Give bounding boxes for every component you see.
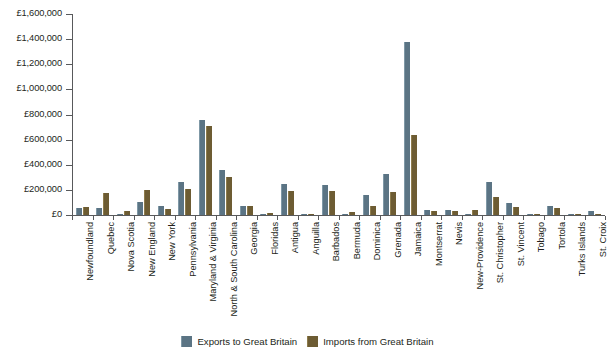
bar-group: [134, 14, 155, 215]
y-tick-label: £1,200,000: [0, 59, 62, 68]
bar-group: [113, 14, 134, 215]
bar-imports: [144, 190, 150, 215]
bar-imports: [349, 212, 355, 215]
x-axis-label: St. Christopher: [496, 222, 505, 283]
bar-imports: [124, 211, 130, 215]
bar-group: [564, 14, 585, 215]
bar-imports: [493, 197, 499, 215]
bar-imports: [83, 207, 89, 215]
bar-exports: [486, 182, 492, 215]
x-axis-label: Floridas: [271, 222, 280, 255]
x-axis-label: New York: [168, 222, 177, 261]
bar-exports: [158, 206, 164, 215]
x-axis-label: Tortola: [558, 222, 567, 250]
plot-area: [72, 14, 605, 215]
x-tick-mark: [482, 216, 483, 220]
x-tick-mark: [359, 216, 360, 220]
bar-exports: [342, 214, 348, 216]
x-tick-mark: [380, 216, 381, 220]
bar-exports: [445, 210, 451, 215]
y-tick-label: £0: [0, 210, 62, 219]
x-tick-mark: [503, 216, 504, 220]
y-tick-label: £400,000: [0, 160, 62, 169]
bar-group: [72, 14, 93, 215]
bar-exports: [424, 210, 430, 215]
x-tick-mark: [195, 216, 196, 220]
x-tick-mark: [441, 216, 442, 220]
y-tick-label: £800,000: [0, 110, 62, 119]
x-tick-mark: [462, 216, 463, 220]
legend-item[interactable]: Exports to Great Britain: [181, 336, 297, 347]
bar-imports: [431, 211, 437, 215]
bar-group: [318, 14, 339, 215]
x-axis-label: North & South Carolina: [230, 222, 239, 316]
x-axis-label: Newfoundland: [86, 222, 95, 281]
x-tick-mark: [134, 216, 135, 220]
x-axis-label: New England: [148, 222, 157, 277]
bar-imports: [370, 206, 376, 215]
legend-label: Imports from Great Britain: [323, 336, 433, 347]
x-axis-label: Barbados: [332, 222, 341, 261]
bar-imports: [513, 207, 519, 215]
bar-group: [585, 14, 606, 215]
legend-item[interactable]: Imports from Great Britain: [307, 336, 433, 347]
bar-imports: [452, 211, 458, 215]
bar-group: [236, 14, 257, 215]
bar-exports: [199, 120, 205, 215]
bar-imports: [554, 208, 560, 215]
bar-exports: [506, 203, 512, 215]
bar-chart: £0£200,000£400,000£600,000£800,000£1,000…: [0, 0, 615, 358]
x-axis-label: Turks Islands: [578, 222, 587, 276]
bar-group: [216, 14, 237, 215]
bar-exports: [117, 214, 123, 215]
bar-imports: [288, 191, 294, 215]
bar-imports: [226, 177, 232, 215]
bar-exports: [281, 184, 287, 215]
bar-imports: [247, 206, 253, 215]
legend-label: Exports to Great Britain: [197, 336, 297, 347]
bar-group: [380, 14, 401, 215]
bar-exports: [137, 202, 143, 215]
x-axis-label: Jamaica: [414, 222, 423, 256]
bar-group: [175, 14, 196, 215]
x-axis-label: Grenada: [394, 222, 403, 258]
bar-group: [257, 14, 278, 215]
y-tick-label: £1,000,000: [0, 84, 62, 93]
bar-group: [462, 14, 483, 215]
bar-group: [298, 14, 319, 215]
x-axis-label: Montserrat: [435, 222, 444, 266]
bar-exports: [568, 214, 574, 215]
bar-group: [339, 14, 360, 215]
bar-exports: [260, 214, 266, 215]
bar-exports: [322, 185, 328, 215]
y-tick-label: £200,000: [0, 185, 62, 194]
x-axis-label: Tobago: [537, 222, 546, 252]
bar-imports: [329, 191, 335, 215]
bar-exports: [301, 214, 307, 215]
x-axis-label: New-Providence: [476, 222, 485, 289]
x-tick-mark: [298, 216, 299, 220]
bar-imports: [206, 126, 212, 215]
x-tick-mark: [257, 216, 258, 220]
bar-imports: [308, 214, 314, 215]
x-axis-label: Maryland & Virginia: [209, 222, 218, 302]
bar-exports: [240, 206, 246, 215]
x-tick-mark: [400, 216, 401, 220]
bar-imports: [267, 213, 273, 215]
x-tick-mark: [236, 216, 237, 220]
x-axis-label: St. Vincent: [517, 222, 526, 266]
bar-imports: [165, 209, 171, 215]
bar-group: [400, 14, 421, 215]
x-tick-mark: [175, 216, 176, 220]
bar-exports: [547, 206, 553, 215]
x-axis-label: Nevis: [455, 222, 464, 245]
bar-exports: [363, 195, 369, 215]
x-tick-mark: [113, 216, 114, 220]
bar-group: [441, 14, 462, 215]
bar-exports: [383, 174, 389, 215]
bar-exports: [404, 42, 410, 215]
bar-exports: [178, 182, 184, 215]
legend-swatch-imports-icon: [307, 336, 318, 347]
bar-group: [195, 14, 216, 215]
x-axis-label: Antigua: [291, 222, 300, 253]
